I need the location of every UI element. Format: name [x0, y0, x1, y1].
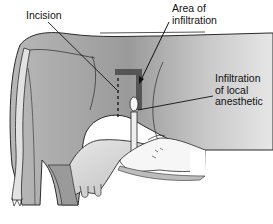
area-label-line2: infiltration	[172, 15, 217, 27]
infiltration-local-anesthetic-label: Infiltration of local anesthetic	[215, 73, 263, 108]
teat	[80, 186, 88, 197]
area-label-line1: Area of	[172, 3, 217, 15]
incision-label: Incision	[26, 10, 62, 22]
area-of-infiltration-label: Area of infiltration	[172, 3, 217, 26]
infil-label-line3: anesthetic	[215, 96, 263, 108]
incision-label-text: Incision	[26, 9, 62, 21]
cow-body	[10, 33, 273, 205]
infil-label-line1: Infiltration	[215, 73, 263, 85]
teat	[94, 184, 101, 196]
syringe-bulb	[130, 97, 138, 111]
cow-illustration	[0, 0, 273, 224]
cow-anesthesia-diagram: Incision Area of infiltration Infiltrati…	[0, 0, 273, 224]
